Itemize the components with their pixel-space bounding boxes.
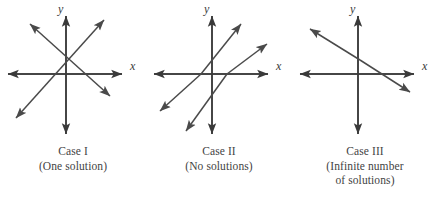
case-block-2: x y Case II (No solutions) xyxy=(146,0,292,210)
y-axis-label-case-3: y xyxy=(349,2,356,16)
case-subtitle-1: (One solution) xyxy=(0,159,146,174)
case-title-2: Case II xyxy=(146,144,292,159)
y-axis-label-case-2: y xyxy=(203,2,210,16)
y-axis-label-case-1: y xyxy=(57,2,64,16)
case-block-3: x y Case III (Infinite number of solutio… xyxy=(292,0,438,210)
x-axis-label-case-2: x xyxy=(275,59,282,73)
case-title-3: Case III xyxy=(292,144,438,159)
graph-case-1: x y xyxy=(0,0,146,146)
case-1-line-b xyxy=(30,24,110,96)
caption-case-3: Case III (Infinite number of solutions) xyxy=(292,144,438,188)
x-axis-label-case-3: x xyxy=(421,59,428,73)
case-1-line-a xyxy=(16,20,104,118)
x-axis-label-case-1: x xyxy=(129,59,136,73)
case-subtitle-3: (Infinite number xyxy=(292,159,438,174)
case-subtitle-2: (No solutions) xyxy=(146,159,292,174)
case-2-line-b xyxy=(186,44,267,131)
caption-case-2: Case II (No solutions) xyxy=(146,144,292,173)
case-subtitle-3-line2: of solutions) xyxy=(292,173,438,188)
case-2-line-a xyxy=(160,24,241,111)
graph-case-3: x y xyxy=(292,0,438,146)
graph-case-2: x y xyxy=(146,0,292,146)
cases-figure-row: x y Case I (One solution) xyxy=(0,0,438,210)
caption-case-1: Case I (One solution) xyxy=(0,144,146,173)
case-title-1: Case I xyxy=(0,144,146,159)
case-3-line-a xyxy=(310,29,410,92)
case-block-1: x y Case I (One solution) xyxy=(0,0,146,210)
